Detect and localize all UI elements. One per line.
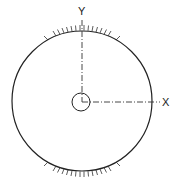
y-axis-label: Y [78, 5, 86, 17]
x-axis-label: X [162, 96, 170, 108]
diagram-canvas: Y X [0, 0, 177, 194]
bottom-hatching [44, 162, 120, 177]
